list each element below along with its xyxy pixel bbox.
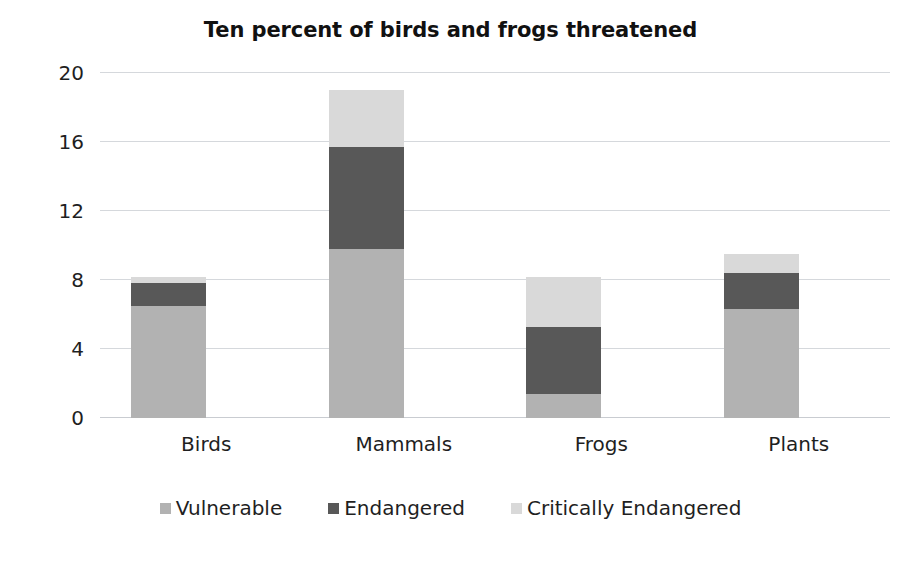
legend-item[interactable]: Endangered bbox=[328, 496, 465, 520]
bar-segment[interactable] bbox=[526, 327, 601, 394]
x-axis-category-label: Frogs bbox=[526, 432, 676, 456]
x-axis-category-label: Plants bbox=[724, 432, 874, 456]
x-axis-category-label: Mammals bbox=[329, 432, 479, 456]
bar-segment[interactable] bbox=[724, 309, 799, 418]
bar-stack[interactable] bbox=[526, 277, 601, 418]
bar-segment[interactable] bbox=[724, 273, 799, 309]
stacked-bar-chart: Ten percent of birds and frogs threatene… bbox=[0, 0, 901, 571]
bar-segment[interactable] bbox=[724, 254, 799, 273]
chart-title: Ten percent of birds and frogs threatene… bbox=[0, 18, 901, 42]
bar-segment[interactable] bbox=[131, 283, 206, 305]
x-axis: BirdsMammalsFrogsPlants bbox=[100, 432, 890, 472]
legend-swatch-icon bbox=[160, 503, 171, 514]
bars-layer bbox=[100, 73, 890, 418]
bar-segment[interactable] bbox=[329, 147, 404, 249]
x-axis-category-label: Birds bbox=[131, 432, 281, 456]
bar-segment[interactable] bbox=[329, 249, 404, 418]
bar-stack[interactable] bbox=[131, 277, 206, 418]
legend-item[interactable]: Critically Endangered bbox=[511, 496, 741, 520]
bar-stack[interactable] bbox=[724, 254, 799, 418]
legend-label: Critically Endangered bbox=[527, 496, 741, 520]
legend-label: Vulnerable bbox=[176, 496, 283, 520]
bar-stack[interactable] bbox=[329, 90, 404, 418]
bar-segment[interactable] bbox=[526, 277, 601, 327]
legend-swatch-icon bbox=[328, 503, 339, 514]
chart-legend: VulnerableEndangeredCritically Endangere… bbox=[0, 496, 901, 520]
legend-swatch-icon bbox=[511, 503, 522, 514]
bar-segment[interactable] bbox=[526, 394, 601, 418]
bar-segment[interactable] bbox=[131, 306, 206, 418]
y-axis-tick-label: 16 bbox=[32, 130, 84, 154]
y-axis: 048121620 bbox=[22, 73, 84, 418]
y-axis-tick-label: 8 bbox=[32, 268, 84, 292]
legend-item[interactable]: Vulnerable bbox=[160, 496, 283, 520]
y-axis-tick-label: 4 bbox=[32, 337, 84, 361]
y-axis-tick-label: 0 bbox=[32, 406, 84, 430]
y-axis-tick-label: 12 bbox=[32, 199, 84, 223]
y-axis-tick-label: 20 bbox=[32, 61, 84, 85]
bar-segment[interactable] bbox=[329, 90, 404, 147]
bar-segment[interactable] bbox=[131, 277, 206, 284]
legend-label: Endangered bbox=[344, 496, 465, 520]
